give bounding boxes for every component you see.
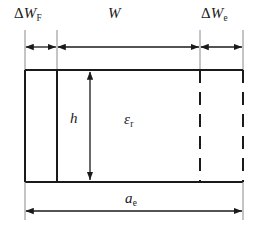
dimension-extension-lines xyxy=(25,30,243,70)
label-delta-w-f-subscript: F xyxy=(37,13,42,23)
label-epsilon-r: εr xyxy=(124,112,133,127)
label-h: h xyxy=(70,111,78,126)
label-delta-w-e-symbol: W xyxy=(211,5,224,21)
label-delta-w-e-subscript: e xyxy=(224,13,228,23)
diagram-canvas: ΔWF W ΔWe h εr ae xyxy=(0,0,267,234)
label-a-e-subscript: e xyxy=(133,198,137,208)
label-delta-w-e: ΔWe xyxy=(201,6,227,21)
label-epsilon-subscript: r xyxy=(130,119,133,129)
label-w: W xyxy=(108,6,121,21)
delta-glyph: Δ xyxy=(201,5,211,21)
label-h-symbol: h xyxy=(70,110,78,126)
label-a-e: ae xyxy=(125,191,137,206)
label-delta-w-f-symbol: W xyxy=(24,5,37,21)
label-delta-w-f: ΔWF xyxy=(14,6,41,21)
label-w-symbol: W xyxy=(108,5,121,21)
label-a-symbol: a xyxy=(125,190,133,206)
delta-glyph: Δ xyxy=(14,5,24,21)
